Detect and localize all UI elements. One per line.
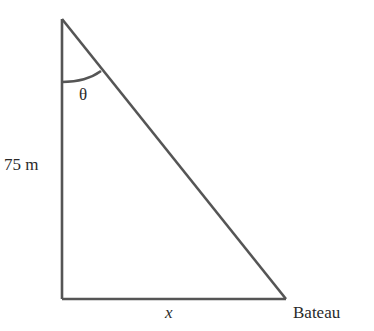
angle-theta-label: θ <box>79 86 87 103</box>
hypotenuse <box>62 19 286 299</box>
angle-arc <box>62 71 101 82</box>
triangle-diagram <box>0 0 374 331</box>
boat-vertex-label: Bateau <box>293 304 340 321</box>
vertical-side-label: 75 m <box>4 156 38 173</box>
triangle <box>62 19 286 299</box>
horizontal-side-label: x <box>165 304 173 321</box>
